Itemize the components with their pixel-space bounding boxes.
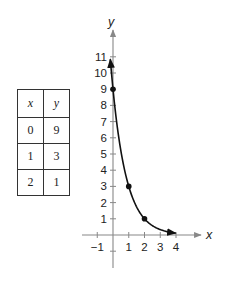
y-tick-label: 10 xyxy=(94,67,107,79)
y-tick-label: 8 xyxy=(101,99,107,111)
data-point xyxy=(110,86,116,92)
data-point xyxy=(142,216,148,222)
x-tick-label: 3 xyxy=(157,241,163,253)
y-tick-label: 1 xyxy=(101,213,107,225)
y-tick-label: 7 xyxy=(101,116,107,128)
x-axis-label: x xyxy=(205,228,213,242)
y-tick-label: 3 xyxy=(101,180,107,192)
axis-ticks xyxy=(97,57,176,251)
y-tick-label: 9 xyxy=(101,83,107,95)
x-tick-label: 1 xyxy=(126,241,132,253)
x-tick-label: 2 xyxy=(141,241,147,253)
y-tick-label: 5 xyxy=(101,148,107,160)
y-tick-label: 2 xyxy=(101,197,107,209)
y-tick-label: 11 xyxy=(95,51,107,63)
tick-labels: −112341234567891011 xyxy=(91,51,180,253)
x-tick-label: 4 xyxy=(173,241,180,253)
data-point xyxy=(126,184,132,190)
curve xyxy=(110,59,175,233)
exponential-graph: −112341234567891011 x y xyxy=(0,0,234,281)
x-tick-label: −1 xyxy=(91,241,104,253)
y-tick-label: 4 xyxy=(101,164,108,176)
y-tick-label: 6 xyxy=(101,132,107,144)
y-axis-label: y xyxy=(107,15,115,29)
